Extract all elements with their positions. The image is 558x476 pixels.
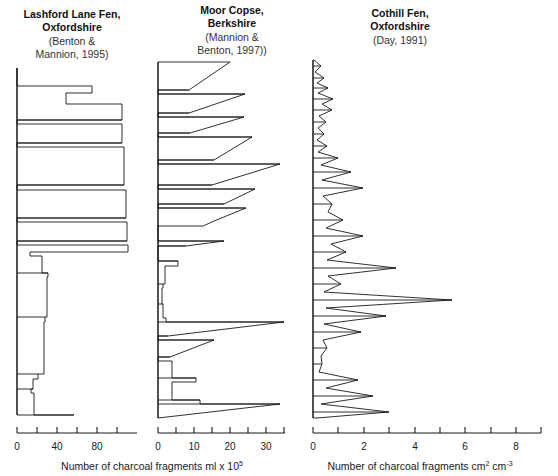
panel-1-xtick-80: 80 (91, 441, 103, 452)
panel-3-x-axis: 0 2 4 6 8 (310, 427, 541, 452)
right-axis-title-main-b: cm (489, 460, 506, 472)
panel-3-subtitle-line-1: (Day, 1991) (373, 34, 427, 46)
panel-2-title-line-2: Berkshire (208, 17, 257, 29)
panel-3-title-line-2: Oxfordshire (370, 20, 430, 32)
figure-svg: Lashford Lane Fen, Oxfordshire (Benton &… (0, 0, 558, 476)
left-axis-title: Number of charcoal fragments ml x 105 (61, 460, 243, 472)
right-axis-title: Number of charcoal fragments cm2 cm-3 (327, 460, 512, 472)
panel-2-xtick-0: 0 (155, 441, 161, 452)
panel-2-xtick-30: 30 (260, 441, 272, 452)
panel-3-xtick-6: 6 (462, 441, 468, 452)
panel-1-title-block: Lashford Lane Fen, Oxfordshire (Benton &… (24, 8, 121, 60)
panel-3-curve (313, 60, 452, 418)
right-axis-title-superscript-b: -3 (506, 460, 512, 467)
panel-2-subtitle-line-1: (Mannion & (205, 31, 259, 43)
panel-3-title-line-1: Cothill Fen, (371, 7, 428, 19)
panel-2-xtick-20: 20 (224, 441, 236, 452)
panel-3-xtick-4: 4 (412, 441, 418, 452)
panel-3-xtick-0: 0 (310, 441, 316, 452)
charcoal-profiles-figure: Lashford Lane Fen, Oxfordshire (Benton &… (0, 0, 558, 476)
panel-2-title-line-1: Moor Copse, (200, 4, 264, 16)
svg-text:Number of charcoal fragments c: Number of charcoal fragments cm2 cm-3 (327, 460, 512, 472)
panel-moor-copse: 0 10 20 30 (155, 62, 285, 452)
panel-1-xtick-40: 40 (51, 441, 63, 452)
panel-2-xtick-10: 10 (188, 441, 200, 452)
panel-1-subtitle-line-1: (Benton & (49, 35, 96, 47)
panel-2-curve (158, 62, 284, 418)
panel-1-sample-lines (17, 120, 127, 389)
panel-1-title-line-1: Lashford Lane Fen, (24, 8, 121, 20)
panel-1-x-axis: 0 40 80 (14, 427, 137, 452)
panel-2-x-axis: 0 10 20 30 (155, 427, 285, 452)
panel-3-xtick-8: 8 (513, 441, 519, 452)
panel-1-xtick-0: 0 (14, 441, 20, 452)
panel-3-sample-lines (313, 66, 452, 412)
panel-3-xtick-2: 2 (361, 441, 367, 452)
right-axis-title-main-a: Number of charcoal fragments cm (327, 460, 485, 472)
svg-text:Number of charcoal fragments m: Number of charcoal fragments ml x 105 (61, 460, 243, 472)
left-axis-title-main: Number of charcoal fragments ml x 10 (61, 460, 239, 472)
panel-3-title-block: Cothill Fen, Oxfordshire (Day, 1991) (370, 7, 430, 46)
panel-2-title-block: Moor Copse, Berkshire (Mannion & Benton,… (197, 4, 266, 56)
panel-2-subtitle-line-2: Benton, 1997)) (197, 44, 266, 56)
panel-cothill: 0 2 4 6 8 (310, 60, 541, 452)
panel-lashford: 0 40 80 (14, 68, 137, 452)
panel-1-title-line-2: Oxfordshire (42, 21, 102, 33)
panel-2-sample-lines (158, 90, 284, 404)
panel-1-subtitle-line-2: Mannion, 1995) (36, 48, 109, 60)
left-axis-title-superscript: 5 (239, 460, 243, 467)
